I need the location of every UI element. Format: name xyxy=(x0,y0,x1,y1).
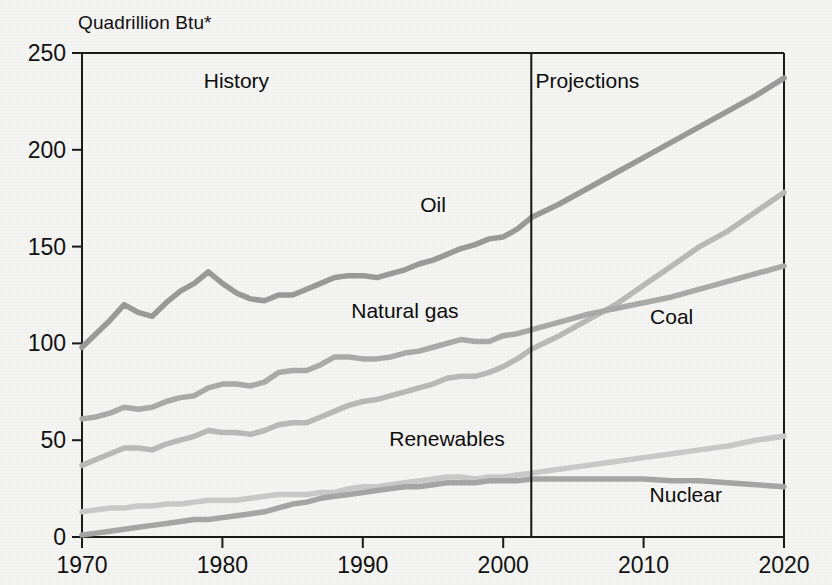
y-tick-label: 0 xyxy=(53,524,66,550)
y-tick-label: 100 xyxy=(28,330,66,356)
svg-text:Natural gas: Natural gas xyxy=(351,299,458,322)
series-label-natural-gas: Natural gasNatural gas xyxy=(351,299,458,322)
svg-text:Renewables: Renewables xyxy=(389,427,505,450)
series-label-oil: OilOil xyxy=(420,193,446,216)
svg-text:History: History xyxy=(204,69,270,92)
series-line-natural-gas xyxy=(82,192,784,465)
svg-text:Coal: Coal xyxy=(650,305,693,328)
chart-plot-area: 050100150200250197019801990200020102020O… xyxy=(0,0,832,585)
y-tick-label: 250 xyxy=(28,40,66,66)
energy-consumption-chart: Quadrillion Btu* 05010015020025019701980… xyxy=(0,0,832,585)
history-label: HistoryHistory xyxy=(204,69,270,92)
series-label-renewables: RenewablesRenewables xyxy=(389,427,505,450)
svg-text:Nuclear: Nuclear xyxy=(650,483,722,506)
svg-text:Oil: Oil xyxy=(420,193,446,216)
y-axis-unit-label: Quadrillion Btu* xyxy=(78,12,212,34)
projections-label: ProjectionsProjections xyxy=(535,69,639,92)
x-tick-label: 2000 xyxy=(478,552,529,578)
y-axis: 050100150200250 xyxy=(28,40,82,550)
x-tick-label: 1980 xyxy=(197,552,248,578)
x-tick-label: 2020 xyxy=(758,552,809,578)
x-axis: 197019801990200020102020 xyxy=(56,537,809,578)
x-tick-label: 1990 xyxy=(337,552,388,578)
series-label-nuclear: NuclearNuclear xyxy=(650,483,722,506)
y-tick-label: 200 xyxy=(28,137,66,163)
x-tick-label: 1970 xyxy=(56,552,107,578)
x-tick-label: 2010 xyxy=(618,552,669,578)
svg-text:Projections: Projections xyxy=(535,69,639,92)
y-tick-label: 50 xyxy=(40,427,66,453)
y-tick-label: 150 xyxy=(28,234,66,260)
series-label-coal: CoalCoal xyxy=(650,305,693,328)
